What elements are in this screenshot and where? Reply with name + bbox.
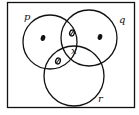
venn-diagram: p q r x [0, 0, 139, 115]
region-p-only-dot [40, 35, 46, 42]
set-q-label: q [119, 14, 125, 25]
set-r-label: r [98, 93, 104, 104]
set-q-circle [61, 10, 117, 66]
region-center-label: x [71, 45, 77, 56]
set-p-circle [23, 15, 77, 69]
region-q-only-dot [97, 34, 103, 41]
region-p-and-q-zero [69, 30, 75, 37]
region-p-and-r-zero [55, 58, 61, 65]
set-p-label: p [24, 11, 31, 22]
